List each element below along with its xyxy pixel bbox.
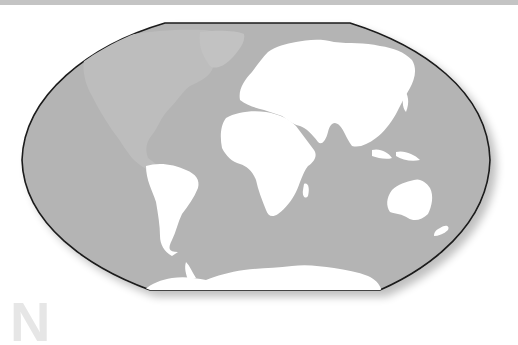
watermark-letter: N — [10, 294, 50, 345]
